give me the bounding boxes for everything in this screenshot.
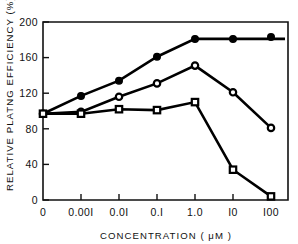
data-point-open-square [78, 111, 84, 117]
x-tick-label: 1.0 [187, 206, 203, 218]
y-tick-label: 0 [32, 194, 38, 206]
data-point-filled-circle [230, 36, 237, 43]
data-point-open-circle [230, 89, 236, 95]
data-point-open-square [116, 106, 122, 112]
data-point-filled-circle [192, 36, 199, 43]
data-point-open-square [154, 107, 160, 113]
x-tick-label: I0 [228, 206, 238, 218]
data-point-open-square [268, 193, 274, 199]
data-point-open-circle [268, 125, 274, 131]
data-point-open-square [230, 167, 236, 173]
y-tick-label: 200 [19, 16, 38, 28]
y-tick-label: 160 [19, 51, 38, 63]
data-point-open-square [40, 111, 46, 117]
data-point-open-square [192, 99, 198, 105]
chart-figure: 04080120160200 00.00I0.0I0.I1.0I0I00 REL… [0, 0, 298, 244]
data-point-open-circle [116, 94, 122, 100]
x-axis-ticks [81, 194, 271, 200]
data-point-filled-circle [116, 77, 123, 84]
y-axis-label: RELATIVE PLATNG EFFICIENCY (%) [4, 0, 15, 191]
data-point-filled-circle [268, 34, 275, 41]
y-axis-tick-labels: 04080120160200 [19, 16, 38, 206]
y-tick-label: 80 [26, 123, 38, 135]
x-tick-label: 0.00I [68, 206, 93, 218]
x-axis-label: CONCENTRATION ( μM ) [100, 230, 232, 241]
data-point-open-circle [192, 62, 198, 68]
data-point-filled-circle [154, 53, 161, 60]
data-point-open-circle [154, 80, 160, 86]
x-tick-label: 0 [40, 206, 46, 218]
x-tick-label: 0.I [151, 206, 164, 218]
series-line-filled-circle [43, 39, 285, 114]
data-point-filled-circle [78, 93, 85, 100]
y-tick-label: 120 [19, 87, 38, 99]
x-tick-label: I00 [263, 206, 279, 218]
plot-canvas: 04080120160200 00.00I0.0I0.I1.0I0I00 REL… [0, 0, 298, 244]
x-tick-label: 0.0I [109, 206, 128, 218]
y-tick-label: 40 [26, 158, 38, 170]
x-axis-tick-labels: 00.00I0.0I0.I1.0I0I00 [40, 206, 279, 218]
